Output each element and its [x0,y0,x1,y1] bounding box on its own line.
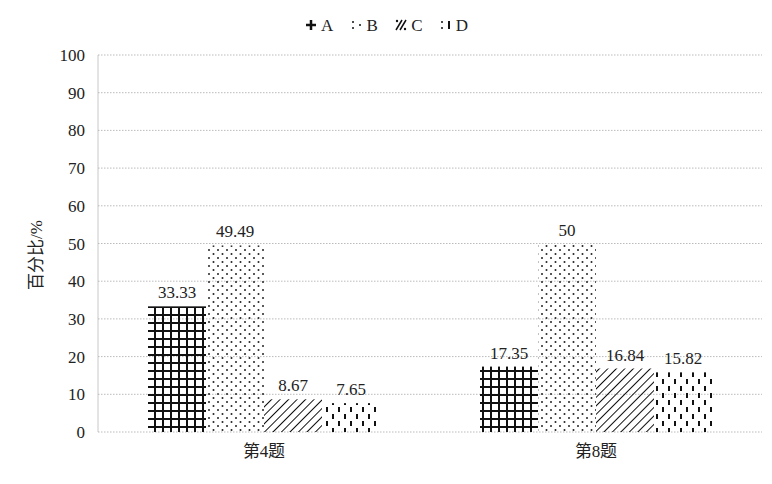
y-tick-label: 10 [68,385,85,404]
bar-chart: 0102030405060708090100 33.3349.498.677.6… [0,0,772,484]
bar-c [596,369,654,432]
bar-b [538,244,596,433]
data-label: 8.67 [278,376,308,395]
bars: 33.3349.498.677.6517.355016.8415.82 [148,221,712,433]
data-label: 50 [559,221,576,240]
y-tick-label: 20 [68,348,85,367]
data-label: 16.84 [606,346,645,365]
y-tick-label: 60 [68,197,85,216]
data-label: 15.82 [664,349,702,368]
data-label: 49.49 [216,222,254,241]
y-tick-label: 40 [68,272,85,291]
bar-a [148,306,206,432]
x-tick-labels: 第4题第8题 [243,442,618,461]
y-tick-label: 70 [68,159,85,178]
y-tick-label: 0 [77,423,86,442]
bar-d [322,403,380,432]
data-label: 17.35 [490,344,528,363]
bar-c [264,399,322,432]
bar-a [480,367,538,432]
y-tick-label: 80 [68,121,85,140]
y-tick-label: 30 [68,310,85,329]
y-tick-labels: 0102030405060708090100 [60,46,86,442]
bar-b [206,245,264,432]
y-tick-label: 90 [68,84,85,103]
data-label: 33.33 [158,283,196,302]
data-label: 7.65 [336,380,366,399]
bar-d [654,372,712,432]
y-tick-label: 50 [68,235,85,254]
y-tick-label: 100 [60,46,86,65]
x-tick-label: 第4题 [243,442,286,461]
x-tick-label: 第8题 [575,442,618,461]
